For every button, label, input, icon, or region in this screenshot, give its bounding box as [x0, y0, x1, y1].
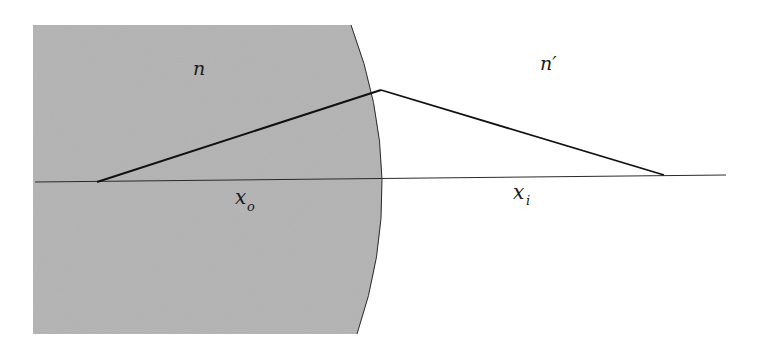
- refraction-diagram: n n′ x o x i: [0, 0, 768, 355]
- refracted-ray: [381, 90, 664, 175]
- label-n-prime: n′: [540, 52, 557, 74]
- label-x-object-subscript: o: [247, 199, 255, 214]
- label-n: n: [193, 57, 205, 79]
- label-x-object: x: [235, 185, 246, 209]
- label-x-image: x: [513, 180, 524, 204]
- label-x-image-subscript: i: [526, 193, 530, 208]
